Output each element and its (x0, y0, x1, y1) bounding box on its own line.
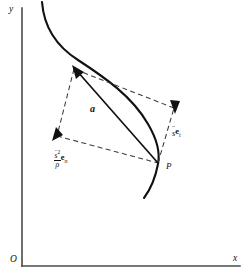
trajectory-curve (42, 2, 159, 198)
point-p-label: P (166, 162, 172, 171)
x-axis-label: x (233, 254, 237, 264)
normal-coefficient-fraction: s2 ρ (54, 150, 61, 169)
parallelogram-edge-tangential-to-tip (74, 69, 174, 108)
tangential-component-label: set (172, 128, 181, 138)
parallelogram-edge-tip-to-normal (57, 69, 74, 136)
acceleration-vector-label: a (90, 104, 95, 114)
normal-component-arrowhead (52, 127, 63, 141)
normal-component-label: s2 ρ en (54, 150, 67, 169)
parallelogram-edge-normal-to-p (57, 136, 158, 163)
acceleration-decomposition-figure: y O x P a set s2 ρ en (0, 0, 250, 279)
y-axis-label: y (9, 5, 13, 15)
s-dot-symbol: s (55, 152, 58, 160)
figure-canvas (0, 0, 250, 279)
origin-label: O (10, 255, 17, 265)
fraction-numerator: s2 (54, 150, 61, 161)
basis-vector-en: en (61, 154, 68, 164)
s-double-dot-symbol: s (172, 129, 175, 138)
fraction-denominator: ρ (54, 161, 61, 169)
acceleration-vector-shaft (77, 71, 158, 163)
basis-subscript-n: n (64, 158, 67, 164)
basis-vector-et: et (175, 128, 180, 138)
basis-subscript-t: t (179, 132, 181, 138)
